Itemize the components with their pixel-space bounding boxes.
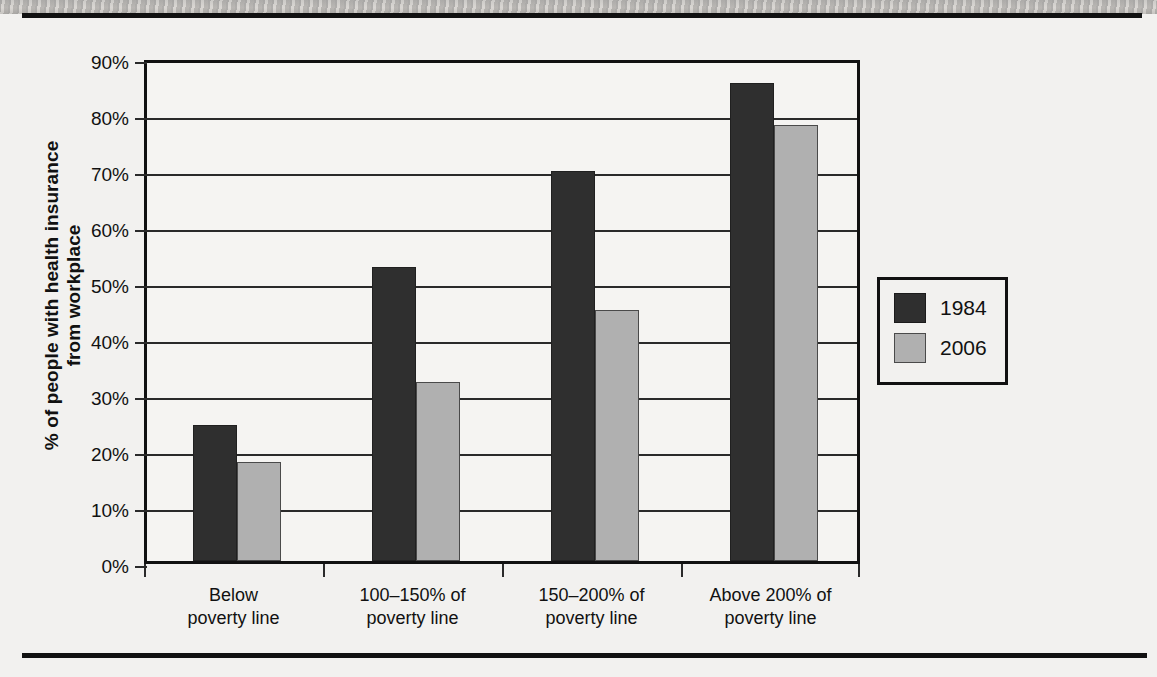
x-axis-category-label-line: poverty line [709,607,831,630]
y-axis-tick [135,230,147,232]
y-axis-tick [135,174,147,176]
y-axis-tick-label: 30% [91,388,129,410]
x-axis-tick [144,564,146,577]
x-axis-category-label-line: poverty line [538,607,644,630]
y-axis-tick [135,398,147,400]
x-axis-category-label: 100–150% ofpoverty line [359,584,465,629]
y-axis-tick [135,62,147,64]
y-axis-tick-label: 70% [91,164,129,186]
x-axis-category-label-line: poverty line [187,607,279,630]
legend-swatch-1984 [894,293,926,323]
x-axis-tick [681,564,683,577]
y-axis-title: % of people with health insurance from w… [41,60,86,530]
bar-1984-group-4 [730,83,774,561]
x-axis-category-label-line: Above 200% of [709,584,831,607]
legend: 1984 2006 [877,277,1008,385]
y-axis-tick [135,342,147,344]
y-axis-title-line-2: from workplace [63,60,85,530]
plot-area: 90%80%70%60%50%40%30%20%10%0% [144,60,860,564]
y-axis-tick [135,118,147,120]
x-axis-category-label: Above 200% ofpoverty line [709,584,831,629]
y-axis-tick-label: 50% [91,276,129,298]
y-axis-tick [135,510,147,512]
x-axis-tick [323,564,325,577]
bar-1984-group-2 [372,267,416,561]
x-axis-category-label-line: Below [187,584,279,607]
x-axis-category-label-line: 150–200% of [538,584,644,607]
bar-2006-group-4 [774,125,818,561]
x-axis-category-label-line: 100–150% of [359,584,465,607]
bar-1984-group-3 [551,171,595,561]
x-axis-category-label: Belowpoverty line [187,584,279,629]
bar-1984-group-1 [193,425,237,561]
y-axis-tick [135,454,147,456]
legend-label-2006: 2006 [940,336,987,360]
y-axis-tick-label: 20% [91,444,129,466]
legend-swatch-2006 [894,333,926,363]
x-axis-category-label-line: poverty line [359,607,465,630]
bar-2006-group-2 [416,382,460,561]
legend-entry-1984: 1984 [894,293,1005,323]
x-axis-category-label: 150–200% ofpoverty line [538,584,644,629]
legend-entry-2006: 2006 [894,333,1005,363]
y-axis-title-line-1: % of people with health insurance [41,60,63,530]
scanned-page-texture [0,0,1157,14]
y-axis-tick [135,286,147,288]
x-axis-tick [502,564,504,577]
y-axis-tick-label: 80% [91,108,129,130]
bar-chart: % of people with health insurance from w… [0,18,1157,653]
y-axis-tick-label: 60% [91,220,129,242]
legend-label-1984: 1984 [940,296,987,320]
bar-2006-group-3 [595,310,639,561]
y-axis-tick-label: 40% [91,332,129,354]
x-axis-tick [858,564,860,577]
y-axis-tick-label: 90% [91,52,129,74]
bar-2006-group-1 [237,462,281,561]
y-axis-tick-label: 0% [102,556,129,578]
y-axis-tick-label: 10% [91,500,129,522]
bottom-divider-rule [22,653,1147,658]
